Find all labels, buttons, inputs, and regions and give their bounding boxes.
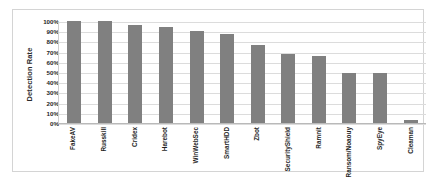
x-axis-tick-label: Russkill: [101, 127, 107, 152]
bar[interactable]: [312, 56, 326, 123]
x-axis-tick-label: SecurityShield: [285, 127, 291, 171]
bar[interactable]: [342, 73, 356, 123]
y-axis-tick: 50%: [35, 70, 59, 76]
x-axis-tick-slot: Ransom/Noaouy: [334, 125, 365, 181]
bar-slot: [365, 22, 396, 123]
bar-slot: [151, 22, 182, 123]
y-axis-tick: 80%: [35, 39, 59, 45]
bar[interactable]: [190, 31, 204, 123]
y-axis-tick: 20%: [35, 100, 59, 106]
x-axis-tick-slot: FakeAV: [58, 125, 89, 181]
bar[interactable]: [404, 120, 418, 123]
y-axis-tick: 40%: [35, 80, 59, 86]
x-axis-tick-label: Harebot: [162, 127, 168, 151]
y-axis-tick: 90%: [35, 29, 59, 35]
x-axis-tick-slot: Ramnit: [303, 125, 334, 181]
x-axis-tick-label: Ramnit: [316, 127, 322, 149]
bar-slot: [59, 22, 90, 123]
bar-slot: [90, 22, 121, 123]
x-axis-tick-slot: SmartHDD: [211, 125, 242, 181]
bar-slot: [273, 22, 304, 123]
x-axis-tick-label: Cleaman: [408, 127, 414, 154]
x-axis-tick-label: Ransom/Noaouy: [346, 127, 352, 177]
bar-slot: [242, 22, 273, 123]
x-axis-tick-slot: Harebot: [150, 125, 181, 181]
x-axis-tick-slot: Cridex: [119, 125, 150, 181]
x-axis-tick-label: Zbot: [254, 127, 260, 141]
bar[interactable]: [159, 27, 173, 123]
y-axis-tick-labels: 100%90%80%70%60%50%40%30%20%10%0%: [35, 22, 59, 124]
chart-frame: Detection Rate 100%90%80%70%60%50%40%30%…: [12, 9, 424, 172]
bar-slot: [334, 22, 365, 123]
bar-slot: [212, 22, 243, 123]
bar-slot: [395, 22, 426, 123]
x-axis-tick-label: FakeAV: [70, 127, 76, 150]
plot-area: [58, 22, 426, 124]
bar-slot: [181, 22, 212, 123]
y-axis-tick: 10%: [35, 111, 59, 117]
x-axis-tick-labels: FakeAVRusskillCridexHarebotWinWebSecSmar…: [58, 125, 426, 181]
bar[interactable]: [67, 21, 81, 123]
x-axis-tick-label: SpyEye: [377, 127, 383, 150]
x-axis-tick-slot: Zbot: [242, 125, 273, 181]
x-axis-tick-slot: Russkill: [89, 125, 120, 181]
y-axis-title-label: Detection Rate: [26, 47, 35, 101]
x-axis-tick-slot: Cleaman: [395, 125, 426, 181]
x-axis-tick-slot: SpyEye: [365, 125, 396, 181]
y-axis-tick: 100%: [35, 19, 59, 25]
bar-series: [59, 22, 426, 123]
bar[interactable]: [281, 54, 295, 123]
bar[interactable]: [128, 25, 142, 123]
bar[interactable]: [373, 73, 387, 123]
bar-slot: [304, 22, 335, 123]
x-axis-tick-slot: SecurityShield: [273, 125, 304, 181]
x-axis-tick-label: SmartHDD: [223, 127, 229, 159]
y-axis-tick: 60%: [35, 60, 59, 66]
x-axis-tick-label: WinWebSec: [193, 127, 199, 163]
bar-slot: [120, 22, 151, 123]
y-axis-tick: 70%: [35, 49, 59, 55]
bar[interactable]: [98, 21, 112, 123]
x-axis-tick-label: Cridex: [131, 127, 137, 147]
y-axis-tick: 30%: [35, 90, 59, 96]
x-axis-tick-slot: WinWebSec: [181, 125, 212, 181]
y-axis-tick: 0%: [35, 121, 59, 127]
bar[interactable]: [251, 45, 265, 123]
bar[interactable]: [220, 34, 234, 123]
